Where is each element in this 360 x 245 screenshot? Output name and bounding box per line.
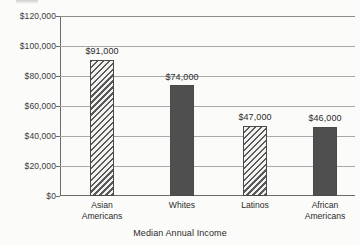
y-axis-label-0: $0: [0, 191, 56, 201]
y-tick-120000: [56, 16, 60, 17]
bar-value-asian-americans: $91,000: [85, 46, 118, 56]
y-tick-80000: [56, 76, 60, 77]
gridline-120000: [60, 16, 355, 17]
category-label-asian-americans: Asian Americans: [82, 200, 123, 221]
y-tick-100000: [56, 46, 60, 47]
bar-value-latinos: $47,000: [238, 112, 271, 122]
y-tick-0: [56, 196, 60, 197]
scan-artifact: [16, 0, 38, 4]
category-line-2: Americans: [305, 211, 346, 222]
bar-value-whites: $74,000: [165, 72, 198, 82]
x-axis-title: Median Annual Income: [0, 228, 360, 238]
category-label-latinos: Latinos: [241, 200, 269, 211]
bar-chart: $120,000 $100,000 $80,000 $60,000 $40,00…: [0, 0, 360, 245]
category-line-1: Latinos: [241, 200, 269, 211]
y-axis-label-100000: $100,000: [0, 41, 56, 51]
y-tick-60000: [56, 106, 60, 107]
bar-african-americans[interactable]: [313, 127, 337, 196]
bar-latinos[interactable]: [243, 126, 267, 197]
plot-area: $91,000 $74,000 $47,000 $46,000: [60, 16, 355, 196]
y-axis-label-60000: $60,000: [0, 101, 56, 111]
y-tick-40000: [56, 136, 60, 137]
bar-asian-americans[interactable]: [90, 60, 114, 197]
bar-whites[interactable]: [170, 85, 194, 196]
y-axis-label-80000: $80,000: [0, 71, 56, 81]
y-axis-label-20000: $20,000: [0, 161, 56, 171]
category-line-2: Americans: [82, 211, 123, 222]
category-label-african-americans: African Americans: [305, 200, 346, 221]
y-axis-label-120000: $120,000: [0, 11, 56, 21]
category-line-1: Whites: [169, 200, 195, 211]
y-tick-20000: [56, 166, 60, 167]
bar-value-african-americans: $46,000: [308, 113, 341, 123]
category-line-1: Asian: [82, 200, 123, 211]
category-label-whites: Whites: [169, 200, 195, 211]
y-axis-label-40000: $40,000: [0, 131, 56, 141]
category-line-1: African: [305, 200, 346, 211]
